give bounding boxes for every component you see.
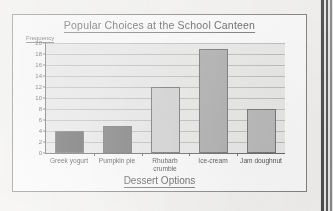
x-tick-label: Greek yogurt — [45, 157, 93, 173]
chart-title-text: Popular Choices at the School Canteen — [64, 19, 255, 33]
bar-slot — [189, 43, 237, 153]
binding-line-1 — [321, 0, 324, 211]
chart-sheet: Popular Choices at the School Canteen Fr… — [12, 14, 307, 192]
bar — [103, 126, 132, 154]
x-tick-label: Jam doughnut — [237, 157, 285, 173]
x-axis-title: Dessert Options — [13, 175, 306, 186]
y-tick-label: 0 — [39, 150, 42, 156]
x-tick-mark — [237, 153, 238, 156]
x-axis-labels: Greek yogurtPumpkin pieRhubarb crumbleIc… — [45, 157, 285, 173]
y-tick-label: 4 — [39, 128, 42, 134]
bar — [247, 109, 276, 153]
bar-slot — [46, 43, 94, 153]
bar-slot — [142, 43, 190, 153]
y-tick-label: 12 — [35, 84, 42, 90]
plot-canvas: 02468101214161820 — [45, 43, 285, 154]
x-tick-label: Rhubarb crumble — [141, 157, 189, 173]
binding-line-3 — [330, 0, 332, 211]
y-tick-label: 14 — [35, 73, 42, 79]
y-tick-label: 20 — [35, 40, 42, 46]
x-tick-mark — [94, 153, 95, 156]
y-tick-label: 10 — [35, 95, 42, 101]
bar-slot — [237, 43, 285, 153]
x-tick-label: Pumpkin pie — [93, 157, 141, 173]
bar — [199, 49, 228, 154]
y-tick-label: 2 — [39, 139, 42, 145]
page-binding-strip — [320, 0, 333, 211]
x-tick-label: Ice-cream — [189, 157, 237, 173]
x-tick-mark — [189, 153, 190, 156]
chart-title: Popular Choices at the School Canteen — [13, 19, 306, 31]
plot-area: 02468101214161820 — [45, 43, 285, 154]
y-tick-label: 6 — [39, 117, 42, 123]
y-tick-label: 18 — [35, 51, 42, 57]
bar-series — [46, 43, 285, 153]
y-tick-label: 8 — [39, 106, 42, 112]
bar-slot — [94, 43, 142, 153]
x-tick-mark — [142, 153, 143, 156]
bar — [55, 131, 84, 153]
bar — [151, 87, 180, 153]
y-tick-label: 16 — [35, 62, 42, 68]
x-axis-title-text: Dessert Options — [124, 175, 196, 188]
binding-line-2 — [326, 0, 328, 211]
